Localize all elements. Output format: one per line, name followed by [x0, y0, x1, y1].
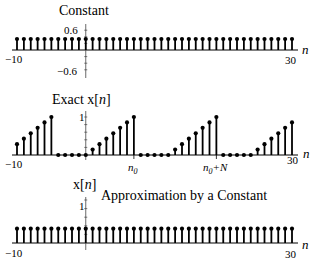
- stem-marker: [256, 227, 260, 231]
- stem-marker: [111, 227, 115, 231]
- top-axis-var: n: [302, 43, 309, 56]
- stem-marker: [166, 153, 170, 157]
- stem-marker: [283, 126, 287, 130]
- bot-ylabel-end: ]: [92, 177, 97, 192]
- stem-marker: [201, 126, 205, 130]
- stem-marker: [207, 37, 211, 41]
- stem-marker: [290, 120, 294, 124]
- stem-marker: [269, 227, 273, 231]
- stem-marker: [42, 227, 46, 231]
- stem-marker: [49, 227, 53, 231]
- stem-marker: [118, 126, 122, 130]
- bot-ylabel-var: n: [85, 177, 92, 192]
- stem-marker: [111, 131, 115, 135]
- stem-marker: [36, 227, 40, 231]
- stem-marker: [125, 37, 129, 41]
- stem-marker: [187, 227, 191, 231]
- stem-plots: [0, 0, 322, 265]
- stem-marker: [194, 131, 198, 135]
- stem-marker: [228, 153, 232, 157]
- stem-marker: [29, 131, 33, 135]
- mid-xtick-max: 30: [287, 155, 298, 166]
- stem-marker: [221, 153, 225, 157]
- stem-marker: [290, 227, 294, 231]
- stem-marker: [262, 37, 266, 41]
- stem-marker: [146, 153, 150, 157]
- bot-xtick-max: 30: [285, 249, 296, 260]
- stem-marker: [214, 37, 218, 41]
- stem-marker: [84, 227, 88, 231]
- stem-marker: [194, 37, 198, 41]
- stem-marker: [97, 37, 101, 41]
- stem-marker: [139, 153, 143, 157]
- bot-plot-title: Approximation by a Constant: [101, 189, 267, 203]
- stem-marker: [63, 153, 67, 157]
- bot-ytick-1: 1: [79, 201, 85, 212]
- stem-marker: [159, 227, 163, 231]
- stem-marker: [15, 227, 19, 231]
- stem-marker: [269, 137, 273, 141]
- bot-ylabel: x[n]: [73, 178, 96, 192]
- stem-marker: [70, 37, 74, 41]
- stem-marker: [207, 120, 211, 124]
- stem-marker: [49, 37, 53, 41]
- stem-marker: [70, 153, 74, 157]
- stem-marker: [276, 37, 280, 41]
- mid-xtick-min: −10: [5, 159, 22, 170]
- stem-marker: [104, 227, 108, 231]
- stem-marker: [180, 227, 184, 231]
- stem-marker: [56, 153, 60, 157]
- stem-marker: [228, 227, 232, 231]
- stem-marker: [173, 37, 177, 41]
- top-ytick-neg: −0.6: [57, 66, 77, 77]
- stem-marker: [49, 115, 53, 119]
- stem-marker: [132, 37, 136, 41]
- stem-marker: [22, 137, 26, 141]
- stem-marker: [276, 131, 280, 135]
- mid-title-text: Exact x[: [52, 92, 99, 107]
- stem-marker: [221, 227, 225, 231]
- stem-marker: [29, 37, 33, 41]
- top-xtick-max: 30: [285, 55, 296, 66]
- stem-marker: [221, 37, 225, 41]
- stem-marker: [214, 115, 218, 119]
- stem-marker: [104, 137, 108, 141]
- mid-plot-title: Exact x[n]: [52, 93, 111, 107]
- stem-marker: [97, 227, 101, 231]
- stem-marker: [15, 37, 19, 41]
- stem-marker: [290, 37, 294, 41]
- stem-marker: [242, 153, 246, 157]
- stem-marker: [201, 227, 205, 231]
- stem-marker: [77, 227, 81, 231]
- stem-marker: [256, 147, 260, 151]
- stem-marker: [36, 126, 40, 130]
- stem-marker: [152, 227, 156, 231]
- stem-marker: [29, 227, 33, 231]
- stem-marker: [146, 227, 150, 231]
- n0-sub: 0: [134, 167, 138, 176]
- stem-marker: [152, 37, 156, 41]
- stem-marker: [36, 37, 40, 41]
- stem-marker: [77, 153, 81, 157]
- stem-marker: [159, 37, 163, 41]
- bot-xtick-min: −10: [5, 248, 22, 259]
- stem-marker: [166, 227, 170, 231]
- stem-marker: [132, 227, 136, 231]
- stem-marker: [84, 37, 88, 41]
- stem-marker: [283, 37, 287, 41]
- stem-marker: [283, 227, 287, 231]
- stem-marker: [139, 37, 143, 41]
- stem-marker: [187, 37, 191, 41]
- stem-marker: [84, 153, 88, 157]
- stem-marker: [15, 142, 19, 146]
- stem-marker: [118, 227, 122, 231]
- stem-marker: [256, 37, 260, 41]
- stem-marker: [111, 37, 115, 41]
- stem-marker: [22, 37, 26, 41]
- stem-marker: [132, 115, 136, 119]
- mid-xtick-n0: n0: [128, 162, 138, 176]
- stem-marker: [56, 37, 60, 41]
- stem-marker: [228, 37, 232, 41]
- stem-marker: [104, 37, 108, 41]
- stem-marker: [91, 37, 95, 41]
